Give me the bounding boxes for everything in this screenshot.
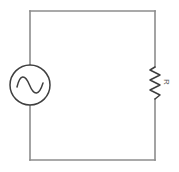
circuit-diagram-figure: R (0, 0, 179, 172)
circuit-svg-canvas: R (0, 0, 179, 172)
resistor-label: R (162, 79, 171, 85)
ac-source-symbol (10, 65, 50, 105)
